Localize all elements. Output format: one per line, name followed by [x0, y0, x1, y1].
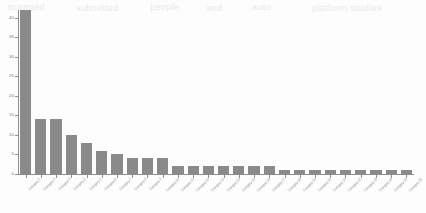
bar [81, 143, 92, 174]
x-category-label: Category 13 [211, 178, 226, 193]
x-category-label: Category 22 [348, 178, 363, 193]
x-category-label: Category 24 [379, 178, 394, 193]
x-category-label: Category 6 [104, 178, 117, 191]
y-axis-tick-label: 35 [9, 35, 14, 39]
x-category-label: Category 12 [196, 178, 211, 193]
x-category-label: Category 5 [89, 178, 102, 191]
bar [218, 166, 229, 174]
bar [325, 170, 336, 174]
bar [172, 166, 183, 174]
x-axis [18, 174, 414, 175]
bar [401, 170, 412, 174]
bar [279, 170, 290, 174]
bar [50, 119, 61, 174]
x-category-label: Category 23 [364, 178, 379, 193]
x-category-label: Category 26 [409, 178, 424, 193]
bar [35, 119, 46, 174]
x-category-label: Category 2 [43, 178, 56, 191]
bar [157, 158, 168, 174]
x-category-label: Category 21 [333, 178, 348, 193]
bar [203, 166, 214, 174]
bar [264, 166, 275, 174]
bar [248, 166, 259, 174]
bar [142, 158, 153, 174]
bar [66, 135, 77, 174]
bar [370, 170, 381, 174]
x-category-label: Category 10 [166, 178, 181, 193]
x-category-label: Category 15 [242, 178, 257, 193]
x-category-label: Category 14 [227, 178, 242, 193]
y-axis-tick-label: 5 [12, 152, 14, 156]
bar [386, 170, 397, 174]
x-category-label: Category 20 [318, 178, 333, 193]
y-axis-tick [15, 174, 18, 175]
bar [309, 170, 320, 174]
x-category-label: Category 18 [287, 178, 302, 193]
bar [340, 170, 351, 174]
bar [355, 170, 366, 174]
y-axis-tick-label: 30 [9, 55, 14, 59]
bar [111, 154, 122, 174]
x-category-label: Category 9 [150, 178, 163, 191]
x-category-label: Category 11 [181, 178, 195, 192]
x-category-label: Category 25 [394, 178, 409, 193]
bar [188, 166, 199, 174]
bar-series [18, 10, 414, 174]
y-axis-tick-label: 40 [9, 16, 14, 20]
x-category-label: Category 17 [272, 178, 287, 193]
bar [20, 10, 31, 174]
x-category-label: Category 3 [59, 178, 72, 191]
y-axis-tick-label: 25 [9, 74, 14, 78]
bar [127, 158, 138, 174]
bar [294, 170, 305, 174]
x-category-label: Category 1 [28, 178, 41, 191]
x-category-label: Category 4 [74, 178, 87, 191]
y-axis-tick-label: 20 [9, 94, 14, 98]
x-category-label: Category 7 [119, 178, 132, 191]
x-category-labels: Category 1Category 2Category 3Category 4… [18, 176, 414, 213]
x-category-label: Category 19 [303, 178, 318, 193]
y-axis-tick-label: 15 [9, 113, 14, 117]
y-axis-tick-label: 10 [9, 133, 14, 137]
bar-chart: scanned submitted people and auto platfo… [0, 0, 426, 213]
x-category-label: Category 8 [135, 178, 148, 191]
x-category-label: Category 16 [257, 178, 272, 193]
y-axis-tick-label: 0 [12, 172, 14, 176]
bar [96, 151, 107, 174]
bar [233, 166, 244, 174]
plot-area: 0510152025303540 [18, 10, 414, 175]
